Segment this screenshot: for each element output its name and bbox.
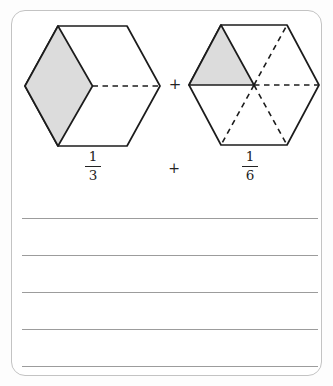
fraction-one-sixth-denominator: 6 bbox=[242, 167, 258, 183]
fraction-one-third-numerator: 1 bbox=[85, 150, 101, 166]
left-hexagon bbox=[25, 26, 160, 146]
fraction-one-sixth: 1 6 bbox=[242, 150, 258, 182]
answer-area[interactable] bbox=[22, 200, 318, 372]
fraction-one-third-denominator: 3 bbox=[85, 167, 101, 183]
writing-line bbox=[22, 255, 318, 256]
fraction-one-third: 1 3 bbox=[85, 150, 101, 182]
expression-plus-operator: + bbox=[166, 161, 182, 175]
writing-line bbox=[22, 366, 318, 367]
writing-line bbox=[22, 218, 318, 219]
figure-plus-operator: + bbox=[167, 77, 183, 92]
writing-line bbox=[22, 292, 318, 293]
writing-line bbox=[22, 329, 318, 330]
worksheet-page: + 1 3 + 1 6 bbox=[0, 0, 333, 386]
fraction-one-sixth-numerator: 1 bbox=[242, 150, 258, 166]
right-hexagon bbox=[189, 25, 319, 145]
